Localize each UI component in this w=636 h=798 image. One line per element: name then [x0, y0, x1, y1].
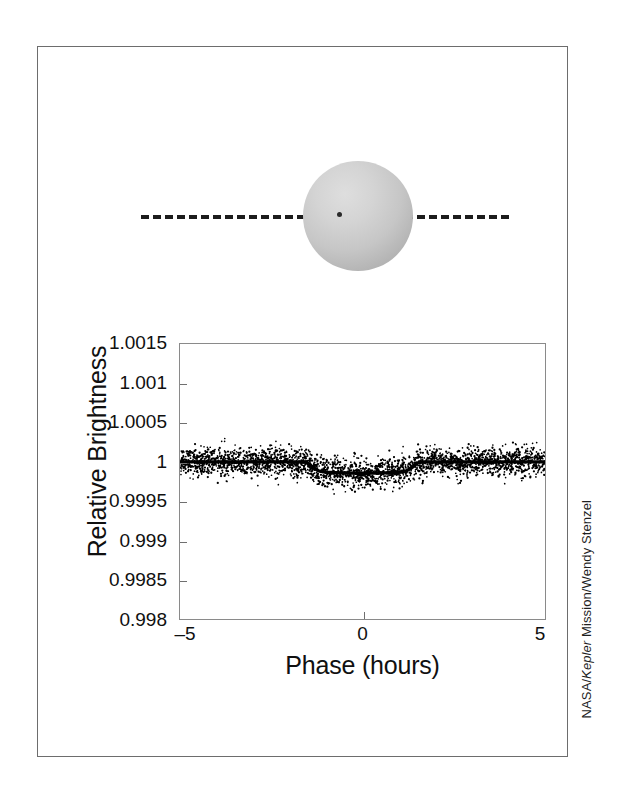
x-tick-label: –5 — [174, 623, 195, 645]
credit-mission-italic: Kepler — [579, 641, 594, 679]
y-tick-mark — [180, 423, 187, 424]
star-disc-icon — [303, 161, 413, 271]
y-tick-label: 0.9985 — [109, 569, 167, 591]
y-tick-mark — [180, 463, 187, 464]
y-tick-mark — [180, 502, 187, 503]
image-credit: NASA/Kepler Mission/Wendy Stenzel — [579, 500, 594, 718]
y-tick-label: 1.0015 — [109, 332, 167, 354]
light-curve-chart: Relative Brightness 1.00151.0011.000510.… — [38, 287, 569, 687]
credit-prefix: NASA/ — [579, 679, 594, 719]
credit-suffix: Mission/Wendy Stenzel — [579, 500, 594, 641]
y-tick-label: 1.0005 — [109, 411, 167, 433]
y-tick-label: 0.9995 — [109, 490, 167, 512]
y-tick-label: 1 — [156, 451, 167, 473]
y-tick-label: 0.998 — [119, 609, 167, 631]
y-tick-mark — [180, 542, 187, 543]
x-tick-mark — [364, 612, 365, 619]
y-axis-tick-labels: 1.00151.0011.000510.99950.9990.99850.998 — [71, 331, 167, 609]
plot-area — [179, 343, 546, 620]
figure-root: Relative Brightness 1.00151.0011.000510.… — [0, 0, 636, 798]
x-tick-label: 0 — [357, 623, 368, 645]
transiting-planet-dot-icon — [337, 212, 342, 217]
x-tick-label: 5 — [535, 623, 546, 645]
y-tick-mark — [180, 384, 187, 385]
y-tick-label: 1.001 — [119, 372, 167, 394]
x-axis-tick-labels: –505 — [179, 623, 546, 649]
figure-panel-border: Relative Brightness 1.00151.0011.000510.… — [37, 46, 568, 757]
x-axis-title: Phase (hours) — [179, 651, 546, 680]
transit-illustration — [38, 47, 569, 287]
transit-model-line — [180, 344, 545, 619]
y-tick-label: 0.999 — [119, 530, 167, 552]
y-tick-mark — [180, 581, 187, 582]
